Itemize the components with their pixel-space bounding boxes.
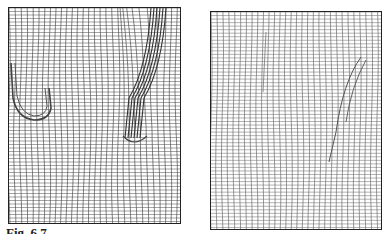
mesh-grid-right [211,12,382,230]
mesh-panel-left [8,7,181,224]
figure-caption: Fig. 6.7 [6,226,47,234]
mesh-panel-right [210,11,382,230]
mesh-grid-left [9,8,181,224]
